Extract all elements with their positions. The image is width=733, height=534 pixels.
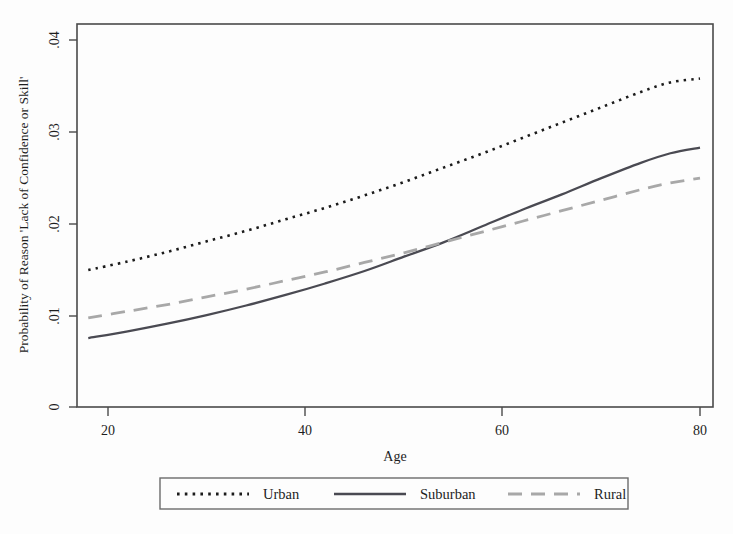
- legend-label-urban: Urban: [263, 486, 300, 502]
- legend-label-suburban: Suburban: [420, 486, 476, 502]
- legend-item-rural[interactable]: Rural: [508, 486, 626, 502]
- line-chart-svg: Probability of Reason 'Lack of Confidenc…: [0, 0, 733, 534]
- y-tick-labels: .04 .03 .02 .01 0: [47, 31, 62, 410]
- legend-item-urban[interactable]: Urban: [177, 486, 300, 502]
- plot-frame: [77, 24, 713, 407]
- legend-item-suburban[interactable]: Suburban: [334, 486, 476, 502]
- y-tick-label: .03: [47, 123, 62, 141]
- series-group: [88, 79, 700, 338]
- chart-legend: Urban Suburban Rural: [160, 478, 628, 509]
- y-tick-label: 0: [47, 404, 62, 411]
- y-tick-label: .01: [47, 307, 62, 325]
- y-tick-label: .02: [47, 215, 62, 233]
- x-tick-labels: 20 40 60 80: [101, 423, 707, 438]
- y-axis-title: Probability of Reason 'Lack of Confidenc…: [16, 77, 31, 354]
- x-tick-marks: [108, 407, 700, 416]
- series-line-suburban: [88, 148, 700, 339]
- x-tick-label: 20: [101, 423, 115, 438]
- chart-figure: Probability of Reason 'Lack of Confidenc…: [0, 0, 733, 534]
- x-tick-label: 40: [298, 423, 312, 438]
- y-tick-marks: [69, 40, 77, 407]
- x-tick-label: 80: [693, 423, 707, 438]
- series-line-rural: [88, 178, 700, 318]
- x-tick-label: 60: [495, 423, 509, 438]
- x-axis-title: Age: [383, 449, 406, 464]
- legend-label-rural: Rural: [594, 486, 626, 502]
- y-tick-label: .04: [47, 31, 62, 49]
